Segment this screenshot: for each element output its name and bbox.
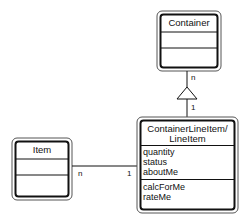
relationship-container-lineitem: n 1	[177, 71, 197, 117]
class-lineitem-name-line2: LineItem	[169, 133, 206, 144]
relationship-item-lineitem: n 1	[72, 166, 137, 178]
operation-rateme: rateMe	[143, 192, 171, 202]
class-container-name: Container	[168, 17, 209, 28]
multiplicity-lineitem-1: 1	[191, 103, 196, 112]
uml-diagram: Container n 1 Item n 1 ContainerLineItem…	[0, 0, 250, 218]
multiplicity-lineitem-1b: 1	[127, 169, 132, 178]
class-container: Container	[157, 11, 221, 71]
multiplicity-item-n: n	[78, 169, 82, 178]
attribute-aboutme: aboutMe	[143, 167, 178, 177]
class-item-name: Item	[33, 144, 52, 155]
operation-calcforme: calcForMe	[143, 182, 185, 192]
class-item: Item	[12, 138, 72, 200]
aggregation-triangle-icon	[177, 87, 197, 99]
attribute-status: status	[143, 157, 168, 167]
class-container-line-item: ContainerLineItem/ LineItem quantity sta…	[137, 117, 238, 213]
attribute-quantity: quantity	[143, 147, 175, 157]
multiplicity-container-n: n	[191, 73, 195, 82]
